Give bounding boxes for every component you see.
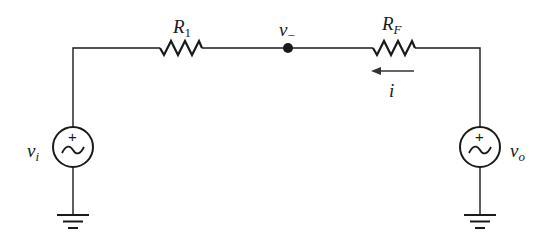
source-vi-plus: + bbox=[68, 129, 77, 144]
label-v-minus: v− bbox=[279, 20, 295, 42]
label-current-i: i bbox=[389, 81, 394, 100]
current-arrow-head bbox=[371, 67, 381, 75]
label-rf: RF bbox=[382, 14, 402, 36]
circuit-diagram: + + R1 v− RF i vi vo bbox=[0, 0, 550, 247]
source-vo-plus: + bbox=[475, 129, 484, 144]
resistor-rf bbox=[373, 41, 415, 55]
circuit-schematic bbox=[0, 0, 550, 247]
label-r1: R1 bbox=[173, 17, 191, 39]
label-vo: vo bbox=[510, 141, 525, 163]
resistor-r1 bbox=[160, 41, 202, 55]
label-vi: vi bbox=[27, 141, 39, 163]
node-v-minus-dot bbox=[283, 43, 293, 53]
wire-left-top bbox=[73, 48, 160, 127]
wire-right-top bbox=[415, 48, 480, 127]
